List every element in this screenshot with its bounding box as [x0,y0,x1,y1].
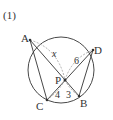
point-P-dot [64,79,67,82]
label-B: B [80,97,87,109]
circle [28,37,94,103]
geometry-diagram: (1) A D P C B x 6 4 3 [0,0,113,120]
point-C-dot [46,99,49,102]
label-A: A [21,32,29,44]
problem-number: (1) [3,9,16,22]
point-A-dot [29,39,32,42]
label-6: 6 [74,55,79,66]
label-C: C [36,100,43,112]
label-P: P [55,74,61,86]
label-3: 3 [66,89,71,100]
label-D: D [94,44,102,56]
label-x: x [51,48,57,59]
segment-AC [30,40,47,100]
label-4: 4 [55,89,60,100]
